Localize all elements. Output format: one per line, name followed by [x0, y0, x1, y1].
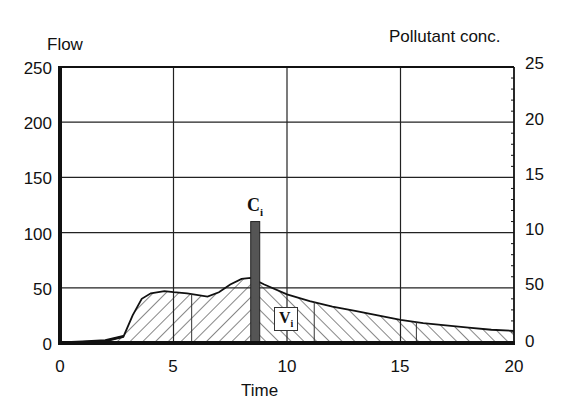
ci-sub: i — [260, 206, 263, 218]
ci-main: C — [247, 195, 260, 215]
ci-label: Ci — [247, 196, 263, 218]
vi-main: V — [279, 309, 291, 326]
vi-label: Vi — [274, 307, 298, 331]
plot-area — [0, 0, 566, 419]
vi-sub: i — [291, 318, 294, 329]
concentration-bar — [251, 222, 260, 343]
